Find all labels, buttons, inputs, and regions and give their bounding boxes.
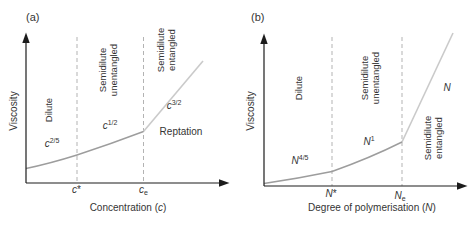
- exponent: 1: [371, 135, 375, 142]
- panel-a-scaling-label-unentangled: c1/2: [103, 120, 118, 131]
- panel-b-y-axis-arrowhead: [260, 34, 267, 45]
- panel-b-tick-entanglement: Ne: [394, 190, 405, 201]
- panel-a-tick-overlap: c*: [72, 184, 81, 195]
- exponent: 2/5: [50, 137, 60, 144]
- panel-b-y-axis-label: Viscosity: [245, 91, 256, 130]
- panel-b-x-axis-label: Degree of polymerisation (N): [308, 202, 436, 213]
- axis-label-close: ): [163, 202, 166, 213]
- panel-a-region-label-dilute: Dilute: [44, 98, 55, 122]
- panel-b-tag: (b): [251, 11, 264, 23]
- panel-b-x-axis-arrowhead: [457, 182, 468, 189]
- panel-b-region-label-dilute: Dilute: [294, 76, 305, 100]
- panel-a-tick-entanglement: ce: [139, 184, 148, 195]
- axis-variable: N: [425, 202, 432, 213]
- panel-b-scaling-label-dilute: N4/5: [292, 155, 309, 166]
- panel-a-y-axis-label: Viscosity: [8, 91, 19, 130]
- panel-a-region-label-semidilute-entangled: Semidilute entangled: [156, 21, 177, 79]
- panel-a-tag: (a): [26, 11, 39, 23]
- exponent: 1/2: [108, 119, 118, 126]
- exponent: 3/2: [172, 99, 182, 106]
- variable: N: [443, 82, 450, 93]
- panel-b-region-label-semidilute-entangled: Semidilute entangled: [423, 109, 444, 167]
- panel-b-scaling-label-entangled: N: [443, 82, 450, 93]
- panel-a-y-axis-arrowhead: [22, 33, 29, 44]
- panel-b-tick-overlap: N*: [325, 188, 336, 199]
- exponent: 4/5: [299, 154, 309, 161]
- star-mark: *: [77, 184, 81, 195]
- subscript: e: [402, 195, 406, 202]
- panel-a-viscosity-curve: [26, 132, 144, 169]
- panel-a-scaling-label-entangled: c3/2: [167, 100, 182, 111]
- axis-label-text: Concentration (: [90, 202, 158, 213]
- panel-b-scaling-label-unentangled: N1: [363, 136, 374, 147]
- panel-a-x-axis-arrowhead: [219, 179, 230, 186]
- panel-a-scaling-label-dilute: c2/5: [45, 138, 60, 149]
- panel-a-x-axis-label: Concentration (c): [90, 202, 167, 213]
- star-mark: *: [333, 188, 337, 199]
- panel-a-mechanism-label: Reptation: [160, 126, 203, 137]
- panel-b-region-label-semidilute-unentangled: Semidilute unentangled: [360, 49, 381, 107]
- axis-label-close: ): [433, 202, 436, 213]
- subscript: e: [144, 189, 148, 196]
- axis-label-text: Degree of polymerisation (: [308, 202, 425, 213]
- panel-b-viscosity-curve: [264, 142, 402, 184]
- viscosity-scaling-figure: (a) Viscosity Dilute Semidilute unentang…: [0, 0, 476, 226]
- panel-a-region-label-semidilute-unentangled: Semidilute unentangled: [98, 41, 119, 99]
